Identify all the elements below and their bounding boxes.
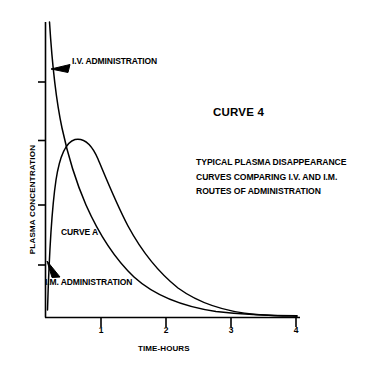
caption-line-2: CURVES COMPARING I.V. AND I.M. bbox=[196, 170, 346, 185]
x-tick-label-1: 1 bbox=[93, 325, 109, 335]
x-tick-label-4: 4 bbox=[288, 325, 304, 335]
x-axis-title: TIME-HOURS bbox=[138, 344, 190, 353]
iv-administration-label: I.V. ADMINISTRATION bbox=[72, 56, 157, 66]
x-axis-ticks bbox=[101, 317, 296, 327]
im-administration-label: I.M. ADMINISTRATION bbox=[45, 277, 132, 287]
x-tick-label-2: 2 bbox=[158, 325, 174, 335]
curve-4-figure: 1 2 3 4 TIME-HOURS PLASMA CONCENTRATION … bbox=[0, 0, 386, 374]
figure-caption: TYPICAL PLASMA DISAPPEARANCE CURVES COMP… bbox=[196, 155, 346, 199]
y-axis-title: PLASMA CONCENTRATION bbox=[28, 130, 37, 270]
caption-line-3: ROUTES OF ADMINISTRATION bbox=[196, 184, 346, 199]
x-tick-label-3: 3 bbox=[223, 325, 239, 335]
curve-a-label: CURVE A bbox=[61, 227, 98, 237]
caption-line-1: TYPICAL PLASMA DISAPPEARANCE bbox=[196, 155, 346, 170]
figure-title: CURVE 4 bbox=[213, 106, 264, 118]
